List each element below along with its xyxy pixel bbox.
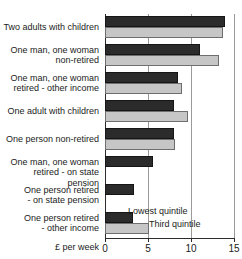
category-label-line: non-retired: [0, 55, 99, 66]
x-tick-15: [234, 238, 235, 242]
chart-container: 051015 Two adults with childrenOne man, …: [0, 0, 242, 259]
cropped-title-text: [118, 0, 178, 5]
category-label: Two adults with children: [0, 22, 99, 33]
bar-row: One person retired- other income: [0, 210, 242, 238]
category-label: One man, one womanretired - other income: [0, 73, 99, 94]
bar-row: One adult with children: [0, 98, 242, 126]
x-tick-5: [148, 238, 149, 242]
category-label-line: retired - other income: [0, 83, 99, 94]
bar-third-quintile: [105, 83, 182, 94]
bar-row: One man, one womanretired - other income: [0, 70, 242, 98]
bar-row: One person retired- on state pension: [0, 182, 242, 210]
legend-label-third: Third quintile: [149, 219, 201, 230]
category-label-line: One man, one woman: [0, 73, 99, 84]
category-label-line: One man, one woman: [0, 45, 99, 56]
category-label-line: One person retired: [0, 185, 99, 196]
x-tick-label-15: 15: [224, 243, 242, 254]
bar-lowest-quintile: [105, 72, 178, 83]
category-label-line: One man, one woman: [0, 157, 99, 168]
bar-third-quintile: [105, 55, 219, 66]
x-axis-line: [105, 238, 235, 239]
category-label: One person retired- other income: [0, 213, 99, 234]
bar-lowest-quintile: [105, 44, 200, 55]
category-label-line: One person non-retired: [0, 134, 99, 145]
bar-lowest-quintile: [105, 128, 174, 139]
cropped-title-remnant: [118, 0, 178, 7]
category-label-line: Two adults with children: [0, 22, 99, 33]
bar-third-quintile: [105, 27, 223, 38]
x-tick-10: [191, 238, 192, 242]
bar-lowest-quintile: [105, 16, 225, 27]
bar-third-quintile: [105, 223, 149, 234]
x-tick-label-10: 10: [181, 243, 201, 254]
bar-row: One man, one womannon-retired: [0, 42, 242, 70]
category-label-line: One person retired: [0, 213, 99, 224]
legend-label-lowest: Lowest quintile: [128, 206, 188, 217]
bar-third-quintile: [105, 139, 175, 150]
x-tick-0: [105, 238, 106, 242]
bar-lowest-quintile: [105, 184, 134, 195]
x-axis-label: £ per week: [0, 242, 99, 253]
bar-row: One person non-retired: [0, 126, 242, 154]
bar-lowest-quintile: [105, 100, 174, 111]
bar-lowest-quintile: [105, 156, 153, 167]
category-label: One man, one womannon-retired: [0, 45, 99, 66]
bar-row: Two adults with children: [0, 14, 242, 42]
bar-row: One man, one womanretired - on state pen…: [0, 154, 242, 182]
category-label-line: One adult with children: [0, 106, 99, 117]
x-tick-label-5: 5: [138, 243, 158, 254]
category-label: One person non-retired: [0, 134, 99, 145]
category-label-line: - other income: [0, 223, 99, 234]
category-label: One adult with children: [0, 106, 99, 117]
bar-third-quintile: [105, 111, 188, 122]
category-label: One person retired- on state pension: [0, 185, 99, 206]
category-label-line: - on state pension: [0, 195, 99, 206]
